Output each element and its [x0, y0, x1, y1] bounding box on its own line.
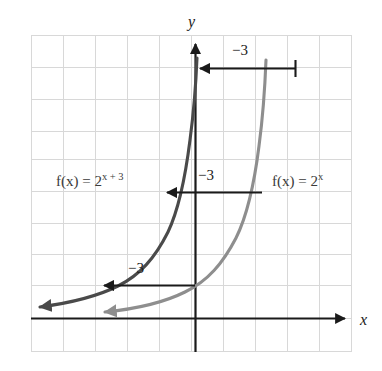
y-axis-label: y — [186, 13, 196, 31]
x-axis-label: x — [359, 311, 367, 328]
base-function-prefix: f(x) = 2 — [272, 173, 318, 190]
shifted-function-label: f(x) = 2x + 3 — [56, 171, 124, 190]
shift-arrow-top — [200, 60, 296, 77]
axes — [31, 44, 345, 352]
shifted-function-prefix: f(x) = 2 — [56, 173, 102, 190]
shift-label-bottom: −3 — [128, 260, 144, 276]
base-function-exponent: x — [318, 171, 324, 182]
shifted-function-exponent: x + 3 — [102, 171, 124, 182]
graph-canvas: y x −3 −3 −3 f(x) = 2x + 3 f(x) = 2x — [0, 0, 382, 371]
base-function-label: f(x) = 2x — [272, 171, 324, 190]
shift-label-top: −3 — [232, 42, 248, 58]
shift-label-middle: −3 — [198, 167, 214, 183]
exponential-shift-figure: y x −3 −3 −3 f(x) = 2x + 3 f(x) = 2x — [0, 0, 382, 371]
